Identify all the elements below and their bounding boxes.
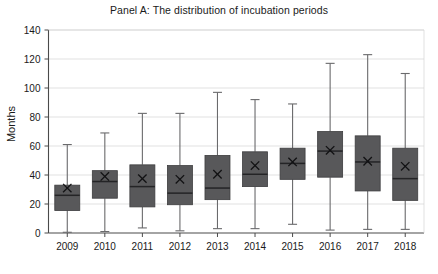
box-plot-item [205, 92, 230, 228]
y-tick-label: 0 [35, 228, 41, 239]
box-iqr [243, 152, 268, 187]
y-tick-label: 140 [24, 25, 41, 36]
box-plot-item [92, 133, 117, 232]
y-tick-label: 120 [24, 54, 41, 65]
x-tick-label: 2017 [357, 241, 380, 252]
y-tick-label: 80 [29, 112, 41, 123]
box-plot-item [55, 145, 80, 233]
x-tick-label: 2014 [244, 241, 267, 252]
box-iqr [393, 148, 418, 200]
x-tick-label: 2010 [94, 241, 117, 252]
box-iqr [167, 166, 192, 205]
box-plot-item [280, 104, 305, 224]
y-axis-ticks: 020406080100120140 [24, 25, 49, 239]
box-iqr [318, 132, 343, 178]
x-tick-label: 2018 [394, 241, 417, 252]
box-iqr [92, 171, 117, 199]
x-axis-ticks: 2009201020112012201320142015201620172018 [56, 233, 417, 252]
box-plot-item [130, 113, 155, 228]
box-iqr [355, 136, 380, 191]
box-plot-item [318, 63, 343, 230]
x-tick-label: 2013 [206, 241, 229, 252]
box-plot-item [355, 55, 380, 230]
y-tick-label: 100 [24, 83, 41, 94]
x-tick-label: 2015 [281, 241, 304, 252]
box-iqr [205, 155, 230, 199]
y-tick-label: 20 [29, 199, 41, 210]
y-tick-label: 40 [29, 170, 41, 181]
box-plot-item [167, 113, 192, 230]
x-tick-label: 2011 [132, 241, 154, 252]
chart-container: Panel A: The distribution of incubation … [0, 0, 438, 274]
box-plot-item [393, 74, 418, 230]
y-tick-label: 60 [29, 141, 41, 152]
x-tick-label: 2009 [56, 241, 79, 252]
box-plot-item [243, 100, 268, 229]
x-tick-label: 2012 [169, 241, 192, 252]
plot-area: 020406080100120140 200920102011201220132… [0, 0, 438, 274]
x-tick-label: 2016 [319, 241, 342, 252]
box-plot-series [55, 55, 418, 233]
